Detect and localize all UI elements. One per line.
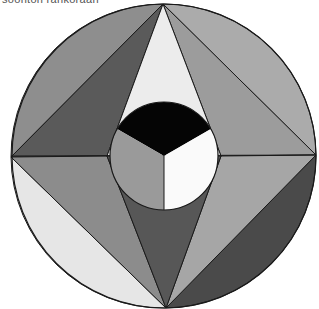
center-circle xyxy=(110,102,218,210)
geometric-diagram xyxy=(0,0,319,309)
